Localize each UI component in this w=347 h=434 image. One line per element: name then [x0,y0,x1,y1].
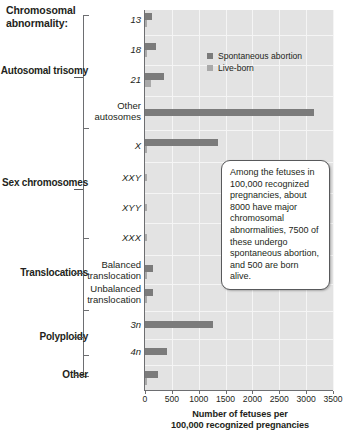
bar-spontaneous-abortion [145,289,153,296]
group-tick-sex-chromosomes [74,189,83,190]
bar-live-born [145,272,147,279]
gridline-horizontal [145,130,333,131]
bar-live-born [145,174,147,181]
gridline-vertical [333,10,334,390]
category-label-xyy: XYY [45,202,141,213]
category-label-xxx: XXX [45,232,141,243]
legend-item-spontaneous-abortion: Spontaneous abortion [207,50,302,62]
legend-label-live-born: Live-born [218,62,254,74]
category-label-13: 13 [45,14,141,25]
bar-spontaneous-abortion [145,73,164,80]
bar-live-born [145,146,147,153]
bar-live-born [145,204,147,211]
gridline-vertical [199,10,200,390]
bar-live-born [145,80,151,87]
x-axis-title: Number of fetuses per 100,000 recognized… [145,409,335,431]
group-tick-polyploidy [74,337,83,338]
gridline-horizontal [145,339,333,340]
bar-spontaneous-abortion [145,371,158,378]
bar-live-born [145,20,147,27]
category-label-other-autosomes: Otherautosomes [45,100,141,122]
legend-label-spontaneous-abortion: Spontaneous abortion [218,50,302,62]
bar-live-born [145,50,147,57]
bar-spontaneous-abortion [145,13,152,20]
bar-live-born [145,234,147,241]
category-label-18: 18 [45,44,141,55]
bar-live-born [145,378,147,385]
legend-swatch-live-born [207,65,213,71]
gridline-vertical [172,10,173,390]
bracket-divider-autosomal [83,128,89,129]
legend-item-live-born: Live-born [207,62,302,74]
bar-spontaneous-abortion [145,348,167,355]
y-axis-line [144,10,145,391]
gridline-horizontal [145,35,333,36]
category-label-21: 21 [45,74,141,85]
x-axis-title-line1: Number of fetuses per [192,409,287,419]
category-label-4n: 4n [45,346,141,357]
group-tick-other [74,375,83,376]
category-label-x: X [45,140,141,151]
bar-spontaneous-abortion [145,265,153,272]
bar-spontaneous-abortion [145,321,213,328]
legend-swatch-spontaneous-abortion [207,53,213,59]
bar-spontaneous-abortion [145,43,156,50]
bracket-divider-translocations [83,310,89,311]
category-label-xxy: XXY [45,172,141,183]
bar-spontaneous-abortion [145,139,218,146]
chart-legend: Spontaneous abortion Live-born [207,50,302,74]
category-label-balanced-translocation: Balancedtranslocation [45,259,141,281]
gridline-horizontal [145,311,333,312]
gridline-horizontal [145,365,333,366]
bar-live-born [145,296,147,303]
gridline-horizontal [145,96,333,97]
category-label-3n: 3n [45,319,141,330]
x-axis-tick-label: 3500 [313,394,347,404]
x-axis-title-line2: 100,000 recognized pregnancies [171,420,309,430]
category-label-unbalanced-translocation: Unbalancedtranslocation [45,283,141,305]
callout-box: Among the fetuses in 100,000 recognized … [221,160,330,290]
bar-spontaneous-abortion [145,109,314,116]
